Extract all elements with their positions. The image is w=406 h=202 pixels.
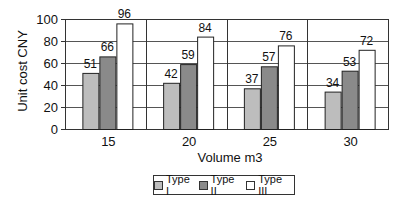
bar <box>261 67 277 130</box>
data-label: 42 <box>164 67 178 81</box>
bar <box>83 73 99 129</box>
legend-item-type-iii: Type III <box>246 173 294 197</box>
bar-chart: 0204060801005166961542598420375776253453… <box>0 0 406 202</box>
legend-swatch-type-ii <box>199 181 208 190</box>
bar <box>181 65 197 130</box>
y-tick-label: 100 <box>36 12 58 27</box>
data-label: 34 <box>326 76 340 90</box>
x-tick-label: 20 <box>182 134 196 149</box>
x-tick-label: 25 <box>263 134 277 149</box>
data-label: 72 <box>360 34 374 48</box>
data-label: 53 <box>343 55 357 69</box>
x-axis-label: Volume m3 <box>165 150 295 165</box>
bar <box>164 83 180 129</box>
legend-item-type-ii: Type II <box>199 173 244 197</box>
plot-area: 0204060801005166961542598420375776253453… <box>0 0 406 202</box>
legend-label: Type II <box>211 173 244 197</box>
x-tick-label: 15 <box>101 134 115 149</box>
y-tick-label: 80 <box>44 34 58 49</box>
bar <box>100 57 116 130</box>
y-tick-label: 40 <box>44 78 58 93</box>
data-label: 76 <box>279 29 293 43</box>
x-tick-label: 30 <box>343 134 357 149</box>
bar <box>325 92 341 129</box>
data-label: 84 <box>198 21 212 35</box>
bar <box>278 46 294 130</box>
bar <box>244 89 260 130</box>
legend-label: Type I <box>166 173 196 197</box>
bar <box>359 50 375 129</box>
legend-label: Type III <box>258 173 294 197</box>
data-label: 96 <box>118 7 132 21</box>
legend-swatch-type-iii <box>246 181 255 190</box>
data-label: 59 <box>181 48 195 62</box>
y-tick-label: 0 <box>51 122 58 137</box>
y-tick-label: 20 <box>44 100 58 115</box>
bar <box>198 37 214 129</box>
y-tick-label: 60 <box>44 56 58 71</box>
y-axis-label: Unit cost CNY <box>15 26 31 116</box>
bar <box>342 71 358 129</box>
legend-swatch-type-i <box>154 181 163 190</box>
legend: Type I Type II Type III <box>153 175 295 195</box>
bar <box>117 24 133 130</box>
data-label: 66 <box>101 40 115 54</box>
data-label: 57 <box>262 50 276 64</box>
data-label: 51 <box>84 57 98 71</box>
data-label: 37 <box>245 72 259 86</box>
legend-item-type-i: Type I <box>154 173 196 197</box>
